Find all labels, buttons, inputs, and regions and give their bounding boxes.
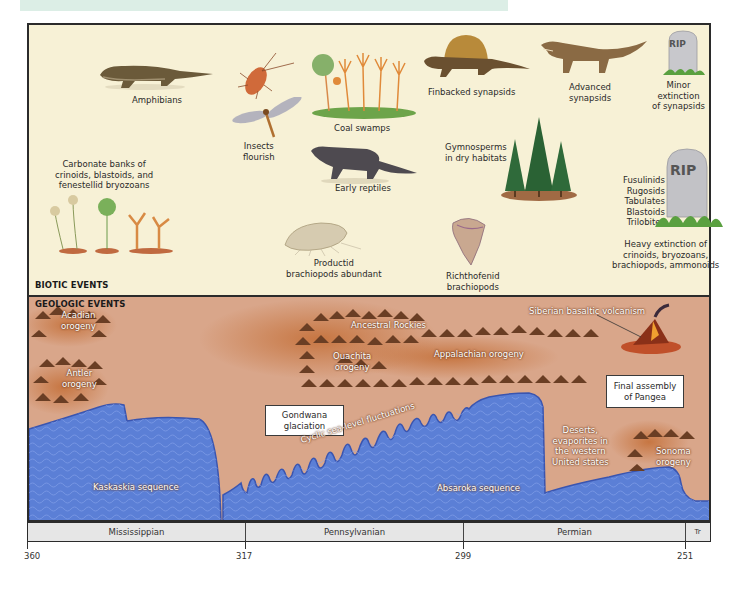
antler-orogeny-label: Antlerorogeny xyxy=(62,368,97,389)
biotic-events-panel: Amphibians Insectsflourish Coal swamps F… xyxy=(27,23,711,295)
coal-swamps-label: Coal swamps xyxy=(334,123,390,134)
period-timeline: Mississippian Pennsylvanian Permian Tr xyxy=(27,522,711,542)
advanced-synapsid-icon xyxy=(539,37,649,77)
title-band xyxy=(20,0,508,11)
deserts-evaporites-label: Deserts,evaporites inthe westernUnited s… xyxy=(552,425,609,467)
sonoma-orogeny-label: Sonomaorogeny xyxy=(656,446,691,467)
heavy-extinction-label: Heavy extinction ofcrinoids, bryozoans,b… xyxy=(612,239,719,271)
crinoid-bryozoan-icon xyxy=(49,195,179,255)
amphibian-icon xyxy=(95,57,215,93)
carbonate-banks-label: Carbonate banks ofcrinoids, blastoids, a… xyxy=(55,159,153,191)
tick-line-360 xyxy=(27,540,28,549)
early-reptile-icon xyxy=(309,143,419,185)
amphibians-label: Amphibians xyxy=(132,95,182,106)
early-reptiles-label: Early reptiles xyxy=(335,183,391,194)
dragonfly-icon xyxy=(232,97,304,139)
productid-label: Productidbrachiopods abundant xyxy=(286,258,382,279)
kaskaskia-sequence-label: Kaskaskia sequence xyxy=(93,482,179,493)
geologic-events-panel: GEOLOGIC EVENTS Acadianorogeny Antleroro… xyxy=(27,295,711,522)
geologic-events-heading: GEOLOGIC EVENTS xyxy=(35,299,125,309)
period-permian: Permian xyxy=(464,523,686,540)
cockroach-icon xyxy=(236,51,296,101)
richthofenid-brachiopod-icon xyxy=(447,215,491,267)
siberian-volcanism-label: Siberian basaltic volcanism xyxy=(529,306,645,317)
large-tombstone-icon xyxy=(655,145,725,229)
tick-line-317 xyxy=(245,540,246,549)
advanced-synapsids-label: Advancedsynapsids xyxy=(569,82,611,103)
absaroka-sequence-label: Absaroka sequence xyxy=(437,483,520,494)
tombstone-icon xyxy=(661,29,709,77)
appalachian-orogeny-label: Appalachian orogeny xyxy=(434,349,524,360)
ouachita-orogeny-label: Ouachitaorogeny xyxy=(333,351,371,372)
tick-line-299 xyxy=(463,540,464,549)
tick-299: 299 xyxy=(455,551,471,561)
tick-360: 360 xyxy=(24,551,40,561)
period-pennsylvanian: Pennsylvanian xyxy=(246,523,464,540)
productid-brachiopod-icon xyxy=(281,219,367,257)
gymnosperms-label: Gymnospermsin dry habitats xyxy=(445,142,507,163)
period-triassic: Tr xyxy=(686,523,709,540)
coal-swamp-plants-icon xyxy=(309,45,419,121)
tick-line-251 xyxy=(685,540,686,549)
ancestral-rockies-label: Ancestral Rockies xyxy=(351,320,426,331)
acadian-orogeny-label: Acadianorogeny xyxy=(61,310,96,331)
tick-251: 251 xyxy=(677,551,693,561)
period-mississippian: Mississippian xyxy=(28,523,246,540)
pangea-box: Final assemblyof Pangea xyxy=(606,375,684,408)
insects-label: Insectsflourish xyxy=(243,141,275,162)
dimetrodon-icon xyxy=(422,31,532,81)
biotic-events-heading: BIOTIC EVENTS xyxy=(35,280,109,290)
minor-tombstone-rip: RIP xyxy=(669,39,686,50)
minor-extinction-label: Minorextinctionof synapsids xyxy=(652,80,705,112)
finbacked-synapsids-label: Finbacked synapsids xyxy=(428,87,515,98)
richthofenid-label: Richthofenidbrachiopods xyxy=(446,271,500,292)
tick-317: 317 xyxy=(236,551,252,561)
gymnosperm-trees-icon xyxy=(499,111,579,203)
large-tombstone-rip: RIP xyxy=(670,165,696,176)
